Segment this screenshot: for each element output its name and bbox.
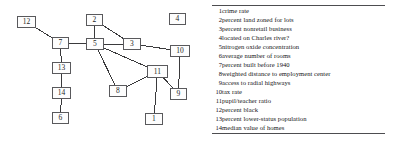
graph-edge-8-11	[127, 77, 147, 87]
legend-index-3: 3	[200, 24, 222, 33]
legend-row: 12percent black	[200, 105, 394, 114]
legend-row: 5nitrogen oxide concentration	[200, 42, 394, 51]
legend-index-7: 7	[200, 60, 222, 69]
graph-edge-2-3	[103, 25, 123, 38]
legend-description-12: percent black	[222, 105, 394, 114]
legend-index-12: 12	[200, 105, 222, 114]
graph-node-6[interactable]: 6	[52, 112, 69, 124]
legend-row: 13percent lower-status population	[200, 114, 394, 123]
legend-description-8: weighted distance to employment center	[222, 69, 394, 78]
graph-node-8[interactable]: 8	[109, 85, 127, 97]
graph-node-14[interactable]: 14	[52, 87, 71, 99]
legend-description-1: crime rate	[222, 6, 394, 15]
graph-node-2[interactable]: 2	[86, 14, 103, 26]
legend-index-6: 6	[200, 51, 222, 60]
legend-index-13: 13	[200, 114, 222, 123]
legend-index-1: 1	[200, 6, 222, 15]
legend-table: 1crime rate2percent land zoned for lots3…	[200, 6, 394, 132]
graph-node-1[interactable]: 1	[145, 113, 163, 125]
legend-index-4: 4	[200, 33, 222, 42]
legend-row: 2percent land zoned for lots	[200, 15, 394, 24]
legend-panel: 1crime rate2percent land zoned for lots3…	[200, 0, 394, 142]
graph-edge-5-8	[98, 50, 115, 85]
figure-container: 1234567891011121314 1crime rate2percent …	[0, 0, 394, 142]
legend-description-3: percent nonretail business	[222, 24, 394, 33]
graph-node-10[interactable]: 10	[170, 45, 190, 57]
graph-node-4[interactable]: 4	[169, 13, 186, 25]
graph-edge-12-7	[36, 28, 52, 38]
graph-node-13[interactable]: 13	[52, 62, 71, 74]
legend-description-7: percent built before 1940	[222, 60, 394, 69]
graph-edge-5-11	[104, 48, 147, 67]
graph-edge-14-6	[61, 99, 62, 112]
legend-description-4: located on Charles river?	[222, 33, 394, 42]
graph-node-5[interactable]: 5	[86, 38, 104, 50]
graph-edge-11-1	[154, 78, 157, 113]
graph-edge-11-9	[164, 78, 173, 88]
legend-description-2: percent land zoned for lots	[222, 15, 394, 24]
graph-node-7[interactable]: 7	[52, 37, 69, 49]
legend-index-8: 8	[200, 69, 222, 78]
legend-description-13: percent lower-status population	[222, 114, 394, 123]
graph-node-12[interactable]: 12	[17, 16, 36, 28]
legend-row: 4located on Charles river?	[200, 33, 394, 42]
legend-bottom-rule	[212, 133, 385, 134]
graph-edge-7-13	[61, 49, 62, 62]
legend-index-5: 5	[200, 42, 222, 51]
legend-row: 1crime rate	[200, 6, 394, 15]
legend-index-10: 10	[200, 87, 222, 96]
legend-description-6: average number of rooms	[222, 51, 394, 60]
legend-description-11: pupil/teacher ratio	[222, 96, 394, 105]
legend-row: 3percent nonretail business	[200, 24, 394, 33]
legend-row: 10tax rate	[200, 87, 394, 96]
graph-node-11[interactable]: 11	[147, 65, 168, 78]
legend-row: 11pupil/teacher ratio	[200, 96, 394, 105]
legend-index-2: 2	[200, 15, 222, 24]
legend-index-11: 11	[200, 96, 222, 105]
legend-row: 14median value of homes	[200, 123, 394, 132]
legend-description-14: median value of homes	[222, 123, 394, 132]
legend-row: 6average number of rooms	[200, 51, 394, 60]
legend-row: 9access to radial highways	[200, 78, 394, 87]
legend-row: 8weighted distance to employment center	[200, 69, 394, 78]
legend-description-10: tax rate	[222, 87, 394, 96]
legend-row: 7percent built before 1940	[200, 60, 394, 69]
legend-description-5: nitrogen oxide concentration	[222, 42, 394, 51]
graph-node-3[interactable]: 3	[123, 38, 141, 50]
graph-panel: 1234567891011121314	[0, 0, 200, 142]
legend-description-9: access to radial highways	[222, 78, 394, 87]
graph-node-9[interactable]: 9	[170, 88, 187, 100]
legend-index-14: 14	[200, 123, 222, 132]
graph-edge-10-9	[179, 57, 180, 88]
graph-edge-3-10	[141, 45, 170, 49]
legend-index-9: 9	[200, 78, 222, 87]
